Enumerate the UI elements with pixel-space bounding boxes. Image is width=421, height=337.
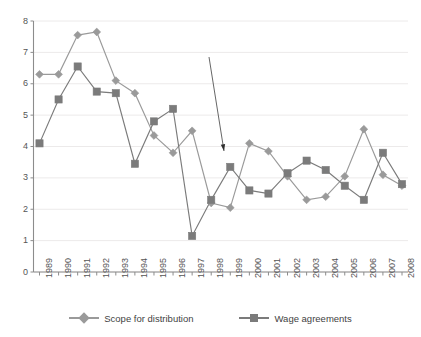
data-point-square [398,181,405,188]
series-line-1 [40,32,403,208]
data-point-square [131,160,138,167]
series-lines [40,32,403,236]
diamond-marker-icon [79,312,90,323]
y-tick-label: 1 [14,235,28,245]
x-tick-label: 2000 [253,258,263,278]
data-point-square [208,196,215,203]
data-point-square [227,163,234,170]
legend-item-wage-agreements[interactable]: Wage agreements [239,312,351,324]
data-point-diamond [36,70,44,78]
plot-area [0,0,421,337]
data-point-diamond [360,125,368,133]
data-point-square [379,149,386,156]
y-tick-label: 6 [14,78,28,88]
x-tick-label: 1992 [101,258,111,278]
legend-label-wage-agreements: Wage agreements [274,313,351,324]
x-tick-label: 2002 [292,258,302,278]
y-tick-label: 0 [14,267,28,277]
series-markers [36,28,406,239]
data-point-diamond [226,204,234,212]
legend-swatch-square [239,312,269,324]
data-point-square [36,140,43,147]
data-point-diamond [93,28,101,36]
data-point-diamond [74,31,82,39]
data-point-square [55,96,62,103]
data-point-square [74,63,81,70]
x-tick-label: 1989 [44,258,54,278]
annotation-arrow-head [221,144,225,151]
x-tick-label: 1993 [120,258,130,278]
x-tick-label: 1996 [177,258,187,278]
x-tick-label: 1995 [158,258,168,278]
line-chart: 012345678 198919901991199219931994199519… [0,0,421,337]
gridlines [34,21,409,272]
data-point-diamond [55,70,63,78]
annotation-arrow [209,57,225,151]
x-tick-label: 2006 [368,258,378,278]
y-tick-label: 5 [14,110,28,120]
data-point-square [246,187,253,194]
x-tick-label: 2007 [387,258,397,278]
data-point-square [93,88,100,95]
x-tick-label: 1990 [63,258,73,278]
y-tick-label: 2 [14,204,28,214]
x-tick-label: 1999 [234,258,244,278]
data-point-square [322,166,329,173]
x-tick-label: 1997 [196,258,206,278]
x-tick-label: 1998 [215,258,225,278]
annotation-arrow-shaft [209,57,224,151]
data-point-square [303,157,310,164]
data-point-square [189,232,196,239]
data-point-square [150,118,157,125]
data-point-diamond [131,89,139,97]
chart-legend: Scope for distribution Wage agreements [0,306,421,330]
y-tick-label: 8 [14,16,28,26]
x-tick-label: 2001 [272,258,282,278]
y-tick-label: 7 [14,47,28,57]
data-point-square [360,196,367,203]
y-tick-label: 3 [14,172,28,182]
x-tick-label: 1991 [82,258,92,278]
data-point-square [169,105,176,112]
x-tick-label: 2004 [330,258,340,278]
data-point-square [112,90,119,97]
square-marker-icon [250,314,258,322]
y-tick-label: 4 [14,141,28,151]
x-tick-label: 2005 [349,258,359,278]
x-tick-label: 2003 [311,258,321,278]
legend-item-scope-for-distribution[interactable]: Scope for distribution [69,312,193,324]
data-point-square [265,190,272,197]
x-tick-label: 1994 [139,258,149,278]
legend-swatch-diamond [69,312,99,324]
legend-label-scope-for-distribution: Scope for distribution [104,313,193,324]
data-point-square [341,182,348,189]
x-tick-label: 2008 [406,258,416,278]
data-point-square [284,170,291,177]
